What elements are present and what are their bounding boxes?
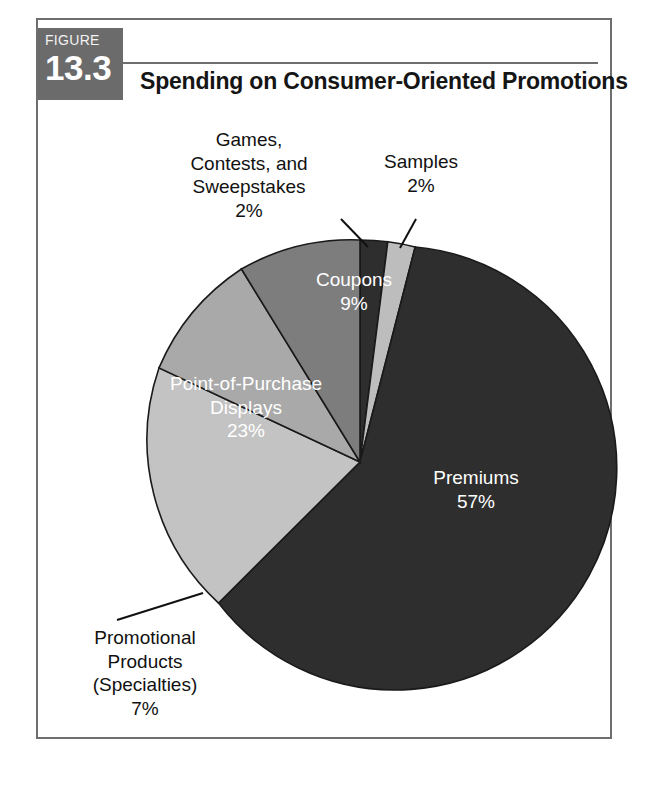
pie-label-point-of-purchase-displays: Point-of-Purchase Displays 23% xyxy=(140,372,352,443)
page-title: Spending on Consumer-Oriented Promotions xyxy=(140,68,600,95)
leader-line-promotional-products xyxy=(117,593,203,620)
figure-number-badge: FIGURE 13.3 xyxy=(38,28,123,100)
pie-label-premiums: Premiums 57% xyxy=(406,466,546,513)
leader-line-samples xyxy=(400,219,416,248)
pie-label-samples: Samples 2% xyxy=(362,150,480,197)
pie-label-promotional-products: Promotional Products (Specialties) 7% xyxy=(50,626,240,720)
pie-label-coupons: Coupons 9% xyxy=(294,268,414,315)
figure-badge-number: 13.3 xyxy=(45,48,123,88)
title-divider xyxy=(123,62,598,64)
pie-label-games-contests-sweepstakes: Games, Contests, and Sweepstakes 2% xyxy=(163,128,335,222)
figure-badge-word: FIGURE xyxy=(45,32,123,48)
